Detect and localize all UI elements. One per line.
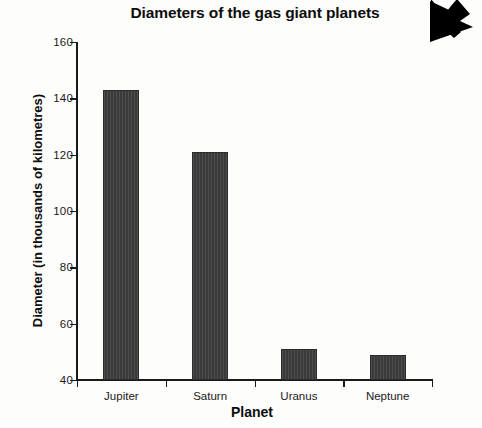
y-tick-label: 120 xyxy=(53,149,73,161)
y-tick-label: 100 xyxy=(53,205,73,217)
x-tick-mark xyxy=(255,380,256,387)
x-tick-mark xyxy=(432,380,433,387)
arrow-down-left-cursor-icon xyxy=(424,0,476,48)
x-category-label: Neptune xyxy=(366,390,409,402)
bar-uranus xyxy=(281,349,317,380)
x-tick-mark xyxy=(343,380,344,387)
plot-area: 406080100120140160 JupiterSaturnUranusNe… xyxy=(77,42,432,380)
bar-saturn xyxy=(192,152,228,380)
bar-neptune xyxy=(370,355,406,380)
y-tick-label: 60 xyxy=(60,318,73,330)
chart-title: Diameters of the gas giant planets xyxy=(60,4,450,22)
x-tick-mark xyxy=(166,380,167,387)
y-axis-title: Diameter (in thousands of kilometres) xyxy=(30,86,45,336)
y-tick-label: 80 xyxy=(60,261,73,273)
x-category-label: Saturn xyxy=(193,390,227,402)
x-tick-mark xyxy=(77,380,78,387)
x-axis-title: Planet xyxy=(77,404,427,420)
y-tick-label: 140 xyxy=(53,92,73,104)
bar-jupiter xyxy=(103,90,139,380)
y-tick-label: 40 xyxy=(60,374,73,386)
x-category-label: Jupiter xyxy=(104,390,139,402)
chart-screenshot: Diameters of the gas giant planets 40608… xyxy=(0,0,482,428)
x-category-label: Uranus xyxy=(280,390,317,402)
y-tick-label: 160 xyxy=(53,36,73,48)
